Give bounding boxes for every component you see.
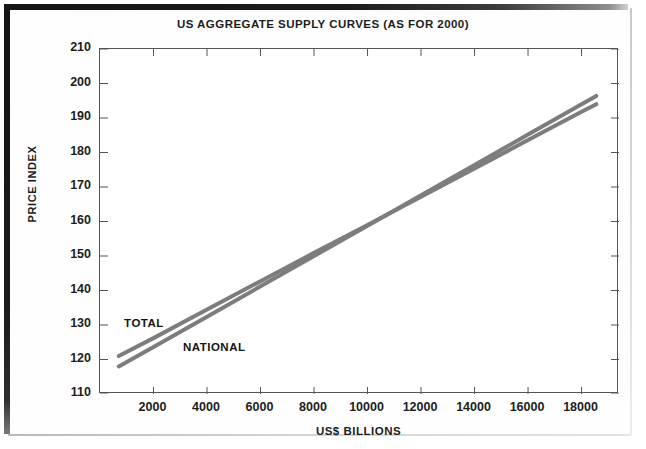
series-label-national: NATIONAL (183, 341, 246, 353)
y-tick-label: 130 (39, 316, 91, 330)
y-tick-label: 210 (39, 40, 91, 54)
y-tick-label: 140 (39, 282, 91, 296)
y-tick-label: 160 (39, 213, 91, 227)
y-tick-label: 190 (39, 109, 91, 123)
chart-title: US AGGREGATE SUPPLY CURVES (AS FOR 2000) (0, 18, 646, 30)
y-tick-label: 110 (39, 385, 91, 399)
y-tick-label: 120 (39, 351, 91, 365)
y-tick-label: 200 (39, 75, 91, 89)
x-axis-title: US$ BILLIONS (99, 425, 618, 437)
x-tick-label: 18000 (546, 400, 616, 414)
series-line-national (119, 96, 597, 366)
y-axis-title: PRICE INDEX (26, 124, 38, 244)
plot-area: TOTALNATIONAL (99, 48, 618, 393)
y-tick-label: 150 (39, 247, 91, 261)
plot-svg (100, 49, 619, 394)
chart-page: US AGGREGATE SUPPLY CURVES (AS FOR 2000)… (0, 0, 646, 449)
series-label-total: TOTAL (124, 317, 164, 329)
scan-border-right (630, 8, 632, 436)
y-tick-label: 170 (39, 178, 91, 192)
y-tick-label: 180 (39, 144, 91, 158)
